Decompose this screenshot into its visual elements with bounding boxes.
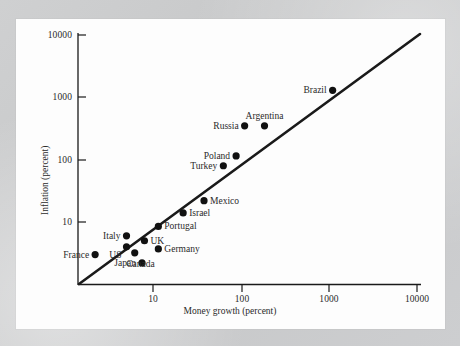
data-point-label: Germany bbox=[164, 244, 199, 254]
data-point[interactable] bbox=[241, 122, 248, 129]
x-tick-label-10000: 10000 bbox=[397, 294, 437, 304]
x-tick-label-1000: 1000 bbox=[309, 294, 349, 304]
data-point[interactable] bbox=[233, 152, 240, 159]
y-axis-title: Inflation (percent) bbox=[40, 146, 50, 215]
data-point-label: UK bbox=[150, 236, 164, 246]
x-tick-label-10: 10 bbox=[133, 294, 173, 304]
forty-five-degree-line bbox=[79, 34, 420, 284]
data-point[interactable] bbox=[180, 209, 187, 216]
data-point[interactable] bbox=[155, 223, 162, 230]
data-point[interactable] bbox=[155, 245, 162, 252]
data-point[interactable] bbox=[131, 249, 138, 256]
data-point-label: Argentina bbox=[246, 111, 284, 121]
x-axis-title: Money growth (percent) bbox=[0, 306, 460, 316]
y-tick-label-10000: 10000 bbox=[18, 30, 72, 40]
y-axis-ticks bbox=[78, 35, 86, 222]
x-tick-label-100: 100 bbox=[222, 294, 262, 304]
data-point-label: Turkey bbox=[190, 161, 217, 171]
data-points-group bbox=[92, 87, 337, 267]
data-point[interactable] bbox=[141, 237, 148, 244]
data-point-label: Italy bbox=[103, 231, 120, 241]
data-point-label: Brazil bbox=[303, 85, 326, 95]
data-point-label: Mexico bbox=[210, 196, 239, 206]
data-point[interactable] bbox=[220, 162, 227, 169]
data-point[interactable] bbox=[200, 197, 207, 204]
data-point-label: Japan bbox=[114, 258, 136, 268]
x-axis-ticks bbox=[153, 284, 417, 292]
y-tick-label-10: 10 bbox=[18, 217, 72, 227]
data-point-label: Israel bbox=[189, 208, 210, 218]
data-point[interactable] bbox=[261, 122, 268, 129]
data-point[interactable] bbox=[329, 87, 336, 94]
data-point-label: Poland bbox=[204, 151, 230, 161]
data-point-label: France bbox=[63, 250, 89, 260]
data-point[interactable] bbox=[123, 243, 130, 250]
data-point[interactable] bbox=[123, 232, 130, 239]
y-tick-label-1000: 1000 bbox=[18, 92, 72, 102]
data-point-label: Russia bbox=[213, 121, 238, 131]
data-point-label: Portugal bbox=[164, 221, 196, 231]
data-point[interactable] bbox=[92, 251, 99, 258]
